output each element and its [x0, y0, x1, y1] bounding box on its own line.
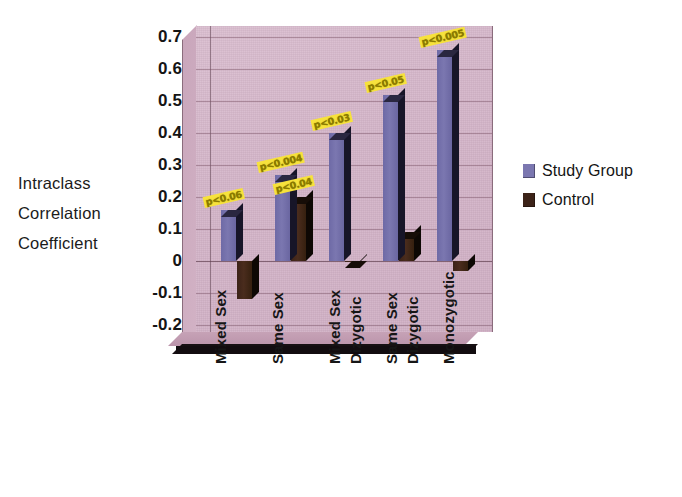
y-axis-tick-neg0p2: -0.2	[122, 315, 182, 335]
legend-control[interactable]: Control	[523, 191, 673, 209]
y-axis-tick-0p3: 0.3	[122, 155, 182, 175]
legend-label: Control	[542, 191, 594, 209]
chart-canvas: Intraclass Correlation Coefficient 0.70.…	[0, 0, 682, 497]
bar-control-mixed-sex-dizygotic	[345, 261, 360, 262]
y-axis-tick-neg0p1: -0.1	[122, 283, 182, 303]
x-label-mixed-sex-dizygotic-line-1: Mixed Sex	[326, 290, 343, 364]
x-label-mixed-sex-dizygotic-line-2: Dizygotic	[347, 296, 364, 364]
bar-side-face	[344, 126, 351, 261]
x-label-mixed-sex: Mixed Sex	[212, 290, 229, 364]
x-label-monozygotic: Monozygotic	[440, 271, 457, 364]
y-axis-tick-0: 0	[122, 251, 182, 271]
bar-face	[437, 50, 452, 261]
legend-swatch-icon	[523, 164, 535, 178]
bar-control-monozygotic	[453, 261, 468, 271]
bar-side-face	[398, 88, 405, 261]
x-label-same-sex-dizygotic-line-1: Same Sex	[383, 292, 400, 364]
legend-swatch-icon	[523, 193, 535, 207]
y-axis-tick-0p4: 0.4	[122, 123, 182, 143]
bar-study-group-mixed-sex-dizygotic	[329, 133, 344, 261]
bar-face	[453, 261, 468, 271]
y-axis-tick-0p1: 0.1	[122, 219, 182, 239]
x-label-same-sex-dizygotic-line-2: Dizygotic	[404, 296, 421, 364]
legend-study-group[interactable]: Study Group	[523, 162, 673, 180]
x-label-same-sex: Same Sex	[269, 292, 286, 364]
bar-face	[221, 210, 236, 261]
legend-label: Study Group	[542, 162, 633, 180]
y-axis-tick-0p7: 0.7	[122, 27, 182, 47]
bar-study-group-monozygotic	[437, 50, 452, 261]
plot-left-wall	[182, 25, 197, 346]
bar-face	[237, 261, 252, 299]
bar-face	[383, 95, 398, 261]
plot-wall-edge	[210, 26, 211, 332]
bar-side-face	[452, 43, 459, 261]
bar-face	[329, 133, 344, 261]
y-axis-tick-0p6: 0.6	[122, 59, 182, 79]
y-axis-tick-0p5: 0.5	[122, 91, 182, 111]
y-axis-tick-0p2: 0.2	[122, 187, 182, 207]
chart-legend: Study GroupControl	[523, 162, 673, 220]
x-axis-category-labels: Mixed SexSame SexMixed SexDizygoticSame …	[182, 358, 512, 493]
bar-study-group-mixed-sex	[221, 210, 236, 261]
bar-side-face	[252, 254, 259, 299]
bar-control-mixed-sex	[237, 261, 252, 299]
bar-study-group-same-sex-dizygotic	[383, 95, 398, 261]
